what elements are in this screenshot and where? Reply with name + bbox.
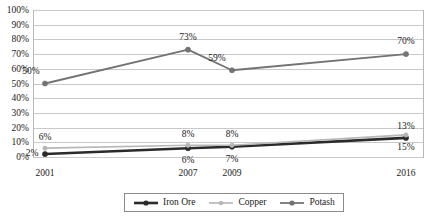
x-tick-label-2001: 2001 (36, 167, 55, 179)
x-tick-label-2007: 2007 (179, 167, 198, 179)
point-label: 50% (22, 66, 39, 76)
gridline-90 (34, 25, 423, 26)
point-label: 13% (397, 121, 414, 131)
point-label: 6% (182, 155, 195, 165)
y-tick-label-30: 30% (12, 108, 29, 118)
y-tick-label-70: 70% (12, 49, 29, 59)
y-tick-label-100: 100% (7, 5, 29, 15)
legend-swatch-icon (133, 198, 159, 208)
y-tick-label-80: 80% (12, 34, 29, 44)
gridline-10 (34, 142, 423, 143)
y-axis: 100%90%80%70%60%50%40%30%20%10%0% (0, 0, 33, 168)
point-label: 8% (182, 129, 195, 139)
legend-label: Copper (238, 197, 266, 208)
y-tick-label-90: 90% (12, 20, 29, 30)
x-axis: 2001200720092016 (0, 167, 429, 183)
legend-swatch-icon (208, 198, 234, 208)
gridline-100 (34, 10, 423, 11)
point-label: 6% (39, 132, 52, 142)
point-label: 73% (179, 32, 196, 42)
legend-item-copper[interactable]: Copper (208, 197, 266, 208)
legend-item-iron-ore[interactable]: Iron Ore (133, 197, 195, 208)
point-label: 15% (397, 142, 414, 152)
gridline-40 (34, 98, 423, 99)
y-tick-label-20: 20% (12, 123, 29, 133)
y-tick-label-50: 50% (12, 79, 29, 89)
y-tick-label-10: 10% (12, 137, 29, 147)
point-label: 59% (208, 53, 225, 63)
point-label: 70% (397, 36, 414, 46)
gridline-30 (34, 113, 423, 114)
point-label: 2% (26, 148, 39, 158)
x-tick-label-2016: 2016 (397, 167, 416, 179)
point-label: 7% (226, 154, 239, 164)
point-label: 8% (226, 129, 239, 139)
x-tick-label-2009: 2009 (223, 167, 242, 179)
legend-label: Iron Ore (163, 197, 195, 208)
legend-item-potash[interactable]: Potash (279, 197, 334, 208)
chart-legend[interactable]: Iron OreCopperPotash (124, 193, 344, 212)
legend-label: Potash (309, 197, 334, 208)
line-chart: 100%90%80%70%60%50%40%30%20%10%0% 200120… (0, 0, 429, 219)
legend-swatch-icon (279, 198, 305, 208)
gridline-80 (34, 39, 423, 40)
gridline-70 (34, 54, 423, 55)
gridline-60 (34, 69, 423, 70)
gridline-50 (34, 84, 423, 85)
y-tick-label-40: 40% (12, 93, 29, 103)
